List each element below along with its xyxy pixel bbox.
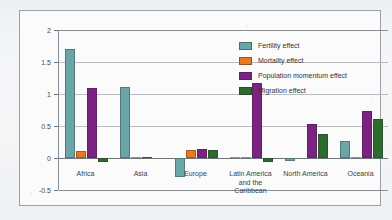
bar [87,88,97,158]
x-axis-category-label-line: Africa [54,170,117,179]
x-axis-category-label-line: Asia [109,170,172,179]
gridline [59,126,388,127]
legend-label: Mortality effect [258,57,303,64]
x-axis-category-label: Europe [164,170,227,179]
x-axis-category-label: North America [274,170,337,179]
y-tick-label: 2 [47,27,51,34]
y-tick-label: 1 [47,91,51,98]
chart-figure: Components of Population Growth 21.510.5… [0,0,392,220]
y-tick-label: 0.5 [41,123,51,130]
bar [186,150,196,158]
plot-frame: 21.510.50-0.5 AfricaAsiaEuropeLatin Amer… [19,10,381,206]
gridline [59,30,388,31]
x-axis-category-label: Latin Americaand theCaribbean [219,170,282,196]
bar [241,157,251,158]
legend-item[interactable]: Fertility effect [239,38,389,53]
legend-item[interactable]: Population momentum effect [239,68,389,83]
legend-label: Migration effect [258,87,306,94]
x-axis-category-label-line: Caribbean [219,187,282,196]
y-tick-mark [54,30,58,31]
bar [307,124,317,158]
y-tick-mark [54,190,58,191]
bar [318,134,328,158]
bar [76,151,86,158]
x-axis-category-label-line: Oceania [329,170,392,179]
bar [362,111,372,158]
bar [351,157,361,158]
x-axis-category-label-line: Europe [164,170,227,179]
bar [208,150,218,158]
x-axis-category-label: Asia [109,170,172,179]
bar [285,158,295,161]
x-axis-category-label: Oceania [329,170,392,179]
bar [142,157,152,158]
bar [263,158,273,162]
legend-label: Population momentum effect [258,72,347,79]
legend-swatch-icon [239,42,252,50]
x-axis-category-label-line: North America [274,170,337,179]
x-axis-category-label-line: and the [219,179,282,188]
x-axis-category-label: Africa [54,170,117,179]
y-tick-label: 1.5 [41,59,51,66]
legend-swatch-icon [239,72,252,80]
legend-label: Fertility effect [258,42,300,49]
chart-legend: Fertility effectMortality effectPopulati… [239,38,389,98]
bar [197,149,207,158]
y-tick-mark [54,62,58,63]
y-tick-mark [54,158,58,159]
legend-swatch-icon [239,87,252,95]
y-tick-mark [54,94,58,95]
bar [65,49,75,158]
y-tick-label: -0.5 [39,187,51,194]
bar [98,158,108,162]
legend-swatch-icon [239,57,252,65]
bar [120,87,130,158]
bar [373,119,383,158]
zero-line [59,158,388,159]
y-tick-label: 0 [47,155,51,162]
legend-item[interactable]: Migration effect [239,83,389,98]
legend-item[interactable]: Mortality effect [239,53,389,68]
x-axis-category-label-line: Latin America [219,170,282,179]
bar [230,157,240,158]
bar [340,141,350,158]
bar [131,157,141,158]
y-tick-mark [54,126,58,127]
